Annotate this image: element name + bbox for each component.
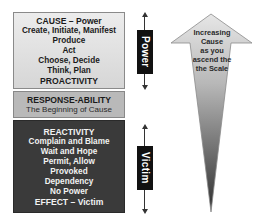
caption-line: Cause	[183, 37, 241, 46]
caption-line: the Scale	[183, 64, 241, 73]
caption-line: as you	[183, 46, 241, 55]
caption-line: Increasing	[183, 28, 241, 37]
scale-arrow-caption: Increasing Cause as you ascend the the S…	[183, 28, 241, 73]
caption-line: ascend the	[183, 55, 241, 64]
